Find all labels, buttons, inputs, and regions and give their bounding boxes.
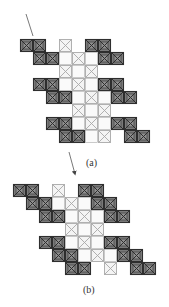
blank-cell — [73, 66, 85, 78]
dark-cross-cell — [92, 185, 104, 197]
dark-cross-cell — [131, 263, 143, 275]
light-cross-cell — [92, 224, 104, 236]
dark-cross-cell — [92, 198, 104, 210]
light-cross-cell — [79, 237, 91, 249]
dark-cross-cell — [21, 40, 33, 52]
light-cross-cell — [73, 105, 85, 117]
dark-cross-cell — [138, 131, 150, 143]
dark-cross-cell — [125, 131, 137, 143]
dark-cross-cell — [105, 211, 117, 223]
light-cross-cell — [86, 118, 98, 130]
blank-cell — [60, 79, 72, 91]
dark-cross-cell — [47, 92, 59, 104]
lattice-diagram-canvas — [0, 0, 169, 307]
light-cross-cell — [79, 211, 91, 223]
diagram-b-grid — [14, 185, 156, 275]
dark-cross-cell — [66, 250, 78, 262]
dark-cross-cell — [27, 185, 39, 197]
diagram-a-grid — [21, 40, 150, 143]
dark-cross-cell — [73, 131, 85, 143]
blank-cell — [86, 79, 98, 91]
light-cross-cell — [86, 92, 98, 104]
dark-cross-cell — [47, 118, 59, 130]
dark-cross-cell — [125, 92, 137, 104]
blank-cell — [92, 211, 104, 223]
light-cross-cell — [105, 263, 117, 275]
dark-cross-cell — [99, 79, 111, 91]
dark-cross-cell — [34, 53, 46, 65]
blank-cell — [79, 198, 91, 210]
dark-cross-cell — [34, 79, 46, 91]
dark-cross-cell — [60, 131, 72, 143]
blank-cell — [86, 131, 98, 143]
dark-cross-cell — [14, 185, 26, 197]
dark-cross-cell — [125, 118, 137, 130]
dark-cross-cell — [131, 250, 143, 262]
dark-cross-cell — [105, 198, 117, 210]
dark-cross-cell — [40, 237, 52, 249]
dark-cross-cell — [40, 198, 52, 210]
dark-cross-cell — [47, 79, 59, 91]
dark-cross-cell — [47, 53, 59, 65]
light-cross-cell — [92, 250, 104, 262]
dark-cross-cell — [53, 211, 65, 223]
light-cross-cell — [86, 66, 98, 78]
blank-cell — [73, 92, 85, 104]
diagram-b-caption: (b) — [83, 284, 95, 295]
dark-cross-cell — [53, 250, 65, 262]
dark-cross-cell — [66, 263, 78, 275]
dark-cross-cell — [112, 79, 124, 91]
light-cross-cell — [60, 40, 72, 52]
dark-cross-cell — [118, 237, 130, 249]
dark-cross-cell — [79, 263, 91, 275]
dark-cross-cell — [112, 118, 124, 130]
dark-cross-cell — [86, 40, 98, 52]
blank-cell — [73, 118, 85, 130]
blank-cell — [60, 53, 72, 65]
blank-cell — [66, 237, 78, 249]
blank-cell — [99, 92, 111, 104]
dark-cross-cell — [60, 92, 72, 104]
blank-cell — [79, 224, 91, 236]
dark-cross-cell — [99, 53, 111, 65]
dark-cross-cell — [112, 53, 124, 65]
blank-cell — [92, 237, 104, 249]
dark-cross-cell — [79, 185, 91, 197]
diagram-a-caption: (a) — [86, 157, 97, 168]
light-cross-cell — [60, 66, 72, 78]
dark-cross-cell — [53, 237, 65, 249]
dark-cross-cell — [99, 40, 111, 52]
light-cross-cell — [99, 131, 111, 143]
light-cross-cell — [66, 198, 78, 210]
blank-cell — [79, 250, 91, 262]
dark-cross-cell — [60, 118, 72, 130]
blank-cell — [99, 118, 111, 130]
dark-cross-cell — [118, 211, 130, 223]
dark-cross-cell — [40, 211, 52, 223]
dark-cross-cell — [27, 198, 39, 210]
dark-cross-cell — [118, 250, 130, 262]
dark-cross-cell — [144, 263, 156, 275]
light-cross-cell — [53, 185, 65, 197]
light-cross-cell — [73, 79, 85, 91]
light-cross-cell — [99, 105, 111, 117]
blank-cell — [105, 250, 117, 262]
blank-cell — [86, 105, 98, 117]
pointer-line-top — [26, 14, 33, 36]
light-cross-cell — [73, 53, 85, 65]
dark-cross-cell — [112, 92, 124, 104]
light-cross-cell — [66, 224, 78, 236]
dark-cross-cell — [34, 40, 46, 52]
blank-cell — [66, 211, 78, 223]
dark-cross-cell — [105, 237, 117, 249]
blank-cell — [53, 198, 65, 210]
blank-cell — [86, 53, 98, 65]
arrow-a-to-b — [69, 152, 75, 174]
